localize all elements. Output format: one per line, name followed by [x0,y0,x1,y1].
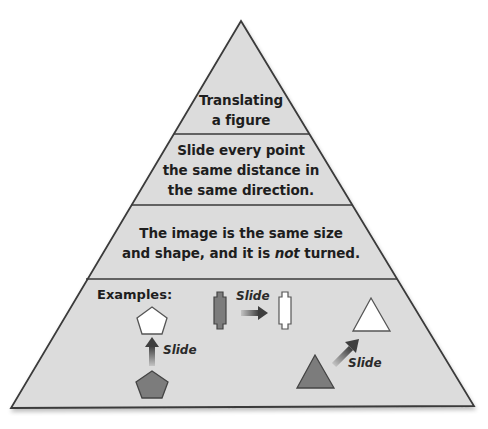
level-3-text: The image is the same size and shape, an… [100,223,382,263]
level-3-line-1: The image is the same size [100,223,382,243]
slide-label-diagonal: Slide [348,356,382,370]
slide-label-right: Slide [236,289,270,303]
level-3-emphasis: not [275,245,300,261]
arrow-up-shaft [149,346,155,366]
notched-rect-preimage-icon [214,292,226,329]
translation-pyramid-diagram: Translating a figure Slide every point t… [0,0,488,429]
level-1-line-1: Translating [181,90,301,110]
pyramid-graphic [0,0,488,429]
level-2-line-3: the same direction. [141,180,341,200]
arrow-right-shaft [241,310,259,316]
level-2-line-1: Slide every point [141,140,341,160]
level-2-text: Slide every point the same distance in t… [141,140,341,200]
examples-heading: Examples: [97,287,172,302]
level-3-line-2-start: and shape, and it is [122,245,275,261]
slide-label-up: Slide [163,343,197,357]
notched-rect-image-icon [279,292,291,329]
level-2-line-2: the same distance in [141,160,341,180]
level-1-line-2: a figure [181,110,301,130]
pyramid-outline [11,21,474,408]
level-3-line-2-tail: turned. [300,245,360,261]
level-3-line-2: and shape, and it is not turned. [100,243,382,263]
level-1-text: Translating a figure [181,90,301,130]
